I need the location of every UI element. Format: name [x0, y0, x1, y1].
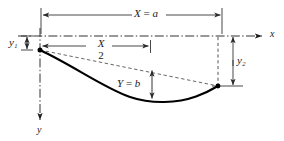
dimension-diagram	[0, 0, 284, 141]
x-axis-label: x	[270, 29, 274, 39]
y1-dimension	[21, 36, 33, 50]
cable-curve-group	[40, 50, 218, 102]
y1-label: y1	[9, 37, 17, 48]
figure-canvas: X = a X 2 Y = b y1 y2 x y	[0, 0, 284, 141]
span-extension-lines	[41, 8, 222, 34]
sag-label: Y = b	[117, 78, 140, 89]
span-label: X = a	[134, 8, 158, 19]
cable-curve	[40, 50, 218, 102]
half-span-denominator: 2	[92, 49, 110, 61]
y-axis-label: y	[37, 125, 41, 135]
half-span-label: X 2	[92, 38, 110, 61]
right-support-node	[216, 84, 221, 89]
y2-label: y2	[237, 55, 245, 66]
half-span-numerator: X	[92, 38, 110, 49]
left-support-node	[38, 48, 43, 53]
